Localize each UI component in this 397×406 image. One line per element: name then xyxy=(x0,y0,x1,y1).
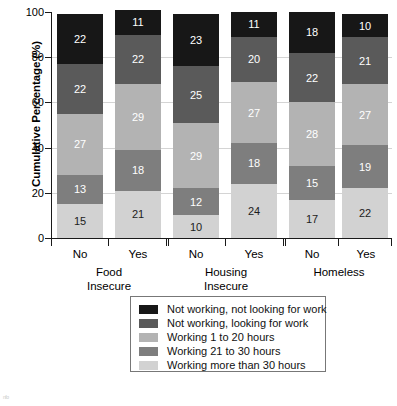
gridline-80 xyxy=(52,57,392,58)
legend-item-4[interactable]: Working more than 30 hours xyxy=(139,358,325,372)
group-tick-food xyxy=(108,239,109,246)
y-tick-mark-40 xyxy=(45,148,51,149)
bar-segment: 29 xyxy=(115,84,161,150)
x-label-housing-yes: Yes xyxy=(224,248,284,260)
bar-segment: 22 xyxy=(342,188,388,238)
y-tick-mark-100 xyxy=(45,12,51,13)
legend-label: Not working, looking for work xyxy=(167,317,308,329)
bar-value-label: 24 xyxy=(231,205,277,216)
stacked-bar-chart: Cumulative Percentage (%) 020406080100 2… xyxy=(0,0,397,406)
x-label-food-yes: Yes xyxy=(108,248,168,260)
bar-segment: 22 xyxy=(289,53,335,103)
bar-value-label: 11 xyxy=(231,19,277,30)
legend-label: Not working, not looking for work xyxy=(167,303,327,315)
bar-segment: 21 xyxy=(115,191,161,238)
group-label-food-line1: Food xyxy=(49,265,169,279)
bar-segment: 19 xyxy=(342,145,388,188)
bar-homeless-no[interactable]: 1822281517 xyxy=(289,12,335,238)
bar-segment: 20 xyxy=(231,37,277,82)
legend-item-3[interactable]: Working 21 to 30 hours xyxy=(139,344,325,358)
bar-value-label: 18 xyxy=(115,165,161,176)
y-tick-label-100: 100 xyxy=(26,6,44,18)
bar-segment: 12 xyxy=(173,188,219,215)
group-label-food-line2: Insecure xyxy=(49,279,169,293)
bar-segment: 27 xyxy=(342,84,388,145)
bar-segment: 18 xyxy=(115,150,161,191)
bar-value-label: 22 xyxy=(289,72,335,83)
group-label-housing-line2: Insecure xyxy=(166,279,286,293)
group-tick-housing xyxy=(225,239,226,246)
bar-segment: 17 xyxy=(289,200,335,238)
bar-value-label: 22 xyxy=(342,208,388,219)
group-tick-homeless xyxy=(338,239,339,246)
legend-swatch-icon xyxy=(139,305,158,314)
gridline-40 xyxy=(52,148,392,149)
bar-value-label: 15 xyxy=(289,177,335,188)
bar-food-insecure-no[interactable]: 2222271315 xyxy=(57,14,103,238)
bar-value-label: 27 xyxy=(342,109,388,120)
legend-swatch-icon xyxy=(139,333,158,342)
legend-swatch-icon xyxy=(139,319,158,328)
bar-value-label: 22 xyxy=(115,54,161,65)
bar-segment: 18 xyxy=(231,143,277,184)
bar-value-label: 10 xyxy=(173,221,219,232)
bar-value-label: 15 xyxy=(57,216,103,227)
group-label-housing: Housing Insecure xyxy=(166,265,286,293)
legend-item-1[interactable]: Not working, looking for work xyxy=(139,316,325,330)
legend-item-2[interactable]: Working 1 to 20 hours xyxy=(139,330,325,344)
bar-value-label: 21 xyxy=(115,209,161,220)
bar-segment: 28 xyxy=(289,102,335,165)
bar-segment: 10 xyxy=(173,215,219,238)
x-label-food-no: No xyxy=(50,248,110,260)
bar-segment: 29 xyxy=(173,123,219,189)
bar-segment: 15 xyxy=(57,204,103,238)
bar-segment: 25 xyxy=(173,66,219,123)
bar-value-label: 22 xyxy=(57,34,103,45)
bar-value-label: 22 xyxy=(57,83,103,94)
y-tick-label-80: 80 xyxy=(32,51,44,63)
group-label-homeless: Homeless xyxy=(279,265,397,279)
legend: Not working, not looking for workNot wor… xyxy=(130,296,326,372)
group-bracket-food xyxy=(51,239,167,246)
legend-item-0[interactable]: Not working, not looking for work xyxy=(139,302,325,316)
bar-value-label: 17 xyxy=(289,213,335,224)
bar-housing-insecure-no[interactable]: 2325291210 xyxy=(173,14,219,238)
legend-label: Working more than 30 hours xyxy=(167,359,306,371)
bar-segment: 27 xyxy=(57,114,103,175)
bar-segment: 22 xyxy=(57,14,103,64)
bar-segment: 11 xyxy=(115,10,161,35)
bar-value-label: 25 xyxy=(173,89,219,100)
legend-label: Working 1 to 20 hours xyxy=(167,331,274,343)
bar-value-label: 18 xyxy=(289,27,335,38)
bar-value-label: 20 xyxy=(231,54,277,65)
y-tick-label-20: 20 xyxy=(32,187,44,199)
bar-segment: 21 xyxy=(342,37,388,84)
bar-value-label: 27 xyxy=(231,107,277,118)
x-label-housing-no: No xyxy=(166,248,226,260)
legend-label: Working 21 to 30 hours xyxy=(167,345,281,357)
bar-housing-insecure-yes[interactable]: 1120271824 xyxy=(231,12,277,238)
bar-segment: 23 xyxy=(173,14,219,66)
bar-segment: 22 xyxy=(115,35,161,85)
plot-area: 2222271315112229182123252912101120271824… xyxy=(52,12,392,238)
bar-value-label: 27 xyxy=(57,139,103,150)
bar-value-label: 29 xyxy=(115,112,161,123)
y-tick-mark-60 xyxy=(45,102,51,103)
bar-value-label: 11 xyxy=(115,17,161,28)
bar-value-label: 21 xyxy=(342,55,388,66)
group-label-food: Food Insecure xyxy=(49,265,169,293)
bar-value-label: 29 xyxy=(173,150,219,161)
group-bracket-housing xyxy=(168,239,284,246)
legend-swatch-icon xyxy=(139,361,158,370)
bar-value-label: 10 xyxy=(342,20,388,31)
y-tick-mark-80 xyxy=(45,57,51,58)
bar-segment: 13 xyxy=(57,175,103,204)
corner-artifact: nfo xyxy=(3,394,8,400)
bar-homeless-yes[interactable]: 1021271922 xyxy=(342,14,388,238)
bar-segment: 10 xyxy=(342,14,388,37)
bar-food-insecure-yes[interactable]: 1122291821 xyxy=(115,10,161,238)
bar-value-label: 12 xyxy=(173,196,219,207)
gridline-60 xyxy=(52,102,392,103)
y-tick-label-40: 40 xyxy=(32,142,44,154)
y-tick-mark-20 xyxy=(45,193,51,194)
